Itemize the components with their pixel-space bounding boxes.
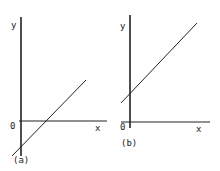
- panel-b-y-label: y: [120, 21, 126, 31]
- panel-a-y-label: y: [11, 20, 17, 30]
- panel-a-line: [12, 80, 86, 156]
- panel-b-line: [121, 23, 197, 103]
- diagram: y x 0 (a) y x 0 (b): [0, 0, 220, 171]
- panel-b-x-label: x: [196, 124, 202, 134]
- panel-b-origin-label: 0: [120, 122, 125, 132]
- panel-b-caption: (b): [121, 138, 137, 148]
- panel-b: y x 0 (b): [120, 15, 210, 148]
- panel-a: y x 0 (a): [10, 17, 107, 165]
- panel-a-caption: (a): [13, 155, 29, 165]
- panel-a-x-label: x: [95, 123, 101, 133]
- panel-a-origin-label: 0: [10, 121, 15, 131]
